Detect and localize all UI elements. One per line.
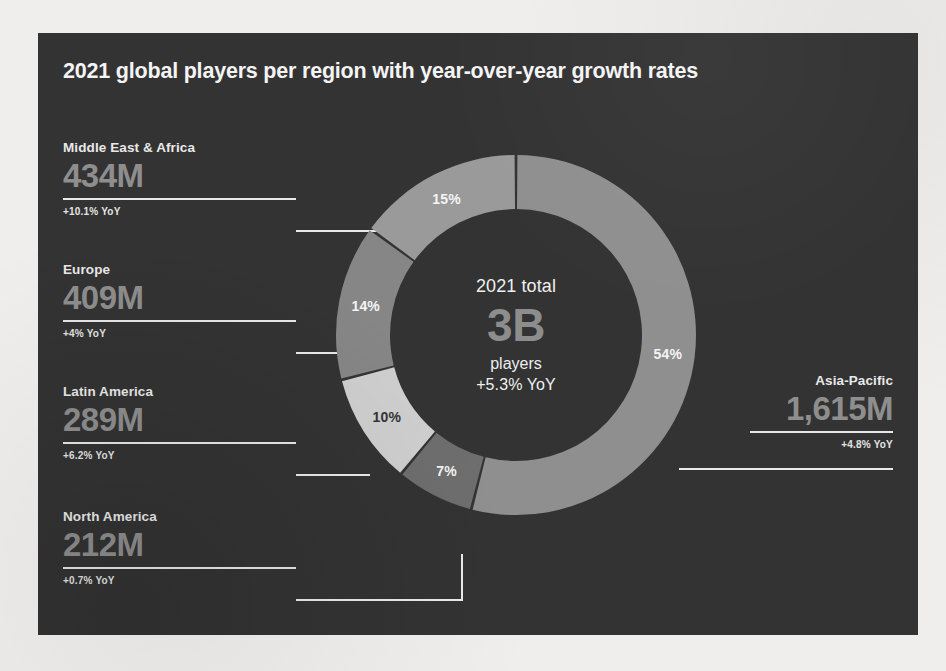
slice-percent-label: 7% bbox=[436, 463, 457, 479]
donut-svg: 54%7%10%14%15% bbox=[331, 150, 701, 520]
region-name: Asia-Pacific bbox=[750, 372, 893, 389]
region-value: 1,615M bbox=[750, 390, 893, 428]
region-rule bbox=[63, 198, 296, 200]
region-yoy: +4% YoY bbox=[63, 328, 296, 339]
region-rule bbox=[750, 431, 893, 433]
region-yoy: +4.8% YoY bbox=[750, 439, 893, 450]
region-value: 409M bbox=[63, 279, 296, 317]
page-canvas: 2021 global players per region with year… bbox=[0, 0, 946, 671]
region-label-middle-east-africa[interactable]: Middle East & Africa 434M +10.1% YoY bbox=[63, 139, 296, 217]
chart-card: 2021 global players per region with year… bbox=[38, 33, 918, 635]
slice-percent-label: 15% bbox=[432, 191, 461, 207]
region-label-asia-pacific[interactable]: Asia-Pacific 1,615M +4.8% YoY bbox=[750, 372, 893, 450]
region-yoy: +6.2% YoY bbox=[63, 450, 296, 461]
leader-line-north-america-elbow bbox=[461, 554, 463, 601]
region-label-latin-america[interactable]: Latin America 289M +6.2% YoY bbox=[63, 383, 296, 461]
region-value: 212M bbox=[63, 526, 296, 564]
leader-line-north-america bbox=[296, 599, 463, 601]
donut-slices bbox=[336, 155, 696, 515]
donut-chart[interactable]: 54%7%10%14%15% 2021 total 3B players +5.… bbox=[331, 150, 701, 520]
leader-line-asia-pacific bbox=[679, 468, 893, 470]
region-name: North America bbox=[63, 508, 296, 525]
region-value: 289M bbox=[63, 401, 296, 439]
region-name: Middle East & Africa bbox=[63, 139, 296, 156]
slice-percent-label: 14% bbox=[351, 298, 380, 314]
donut-slice-middle-east-africa[interactable] bbox=[371, 155, 515, 260]
region-rule bbox=[63, 320, 296, 322]
region-name: Europe bbox=[63, 261, 296, 278]
region-label-europe[interactable]: Europe 409M +4% YoY bbox=[63, 261, 296, 339]
region-rule bbox=[63, 567, 296, 569]
region-name: Latin America bbox=[63, 383, 296, 400]
page-title: 2021 global players per region with year… bbox=[63, 59, 698, 84]
slice-percent-label: 10% bbox=[373, 409, 402, 425]
region-value: 434M bbox=[63, 157, 296, 195]
region-label-north-america[interactable]: North America 212M +0.7% YoY bbox=[63, 508, 296, 586]
region-yoy: +10.1% YoY bbox=[63, 206, 296, 217]
region-rule bbox=[63, 442, 296, 444]
slice-percent-label: 54% bbox=[653, 346, 682, 362]
region-yoy: +0.7% YoY bbox=[63, 575, 296, 586]
